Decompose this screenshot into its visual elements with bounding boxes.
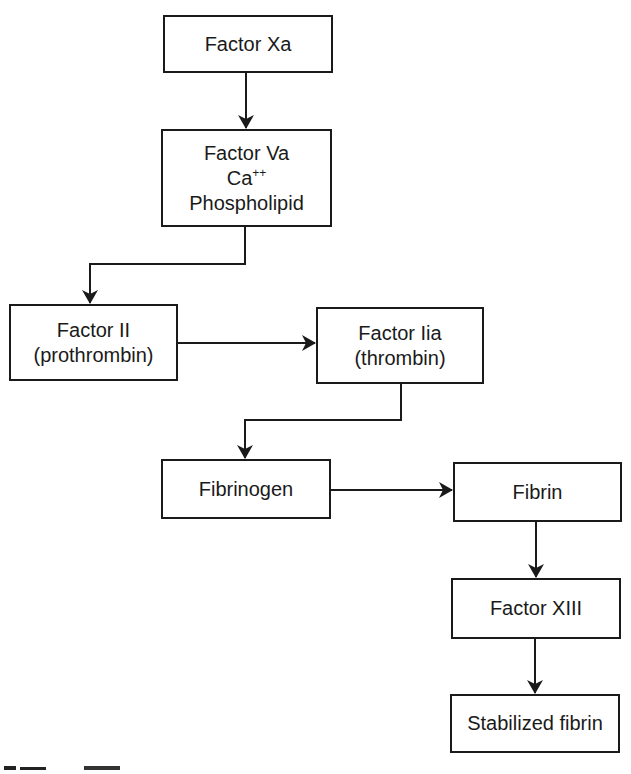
node-sublabel: (thrombin) — [354, 346, 445, 371]
caption-fragment — [4, 758, 144, 770]
node-factor-ii: Factor II (prothrombin) — [9, 304, 178, 381]
node-label: Factor Iia — [358, 321, 441, 346]
node-factor-xiii: Factor XIII — [451, 578, 621, 639]
superscript: ++ — [252, 166, 266, 180]
node-label: Factor Xa — [205, 32, 292, 57]
node-label: Fibrin — [512, 480, 562, 505]
node-sublabel: (prothrombin) — [33, 343, 153, 368]
node-fibrinogen: Fibrinogen — [161, 459, 331, 519]
node-label: Stabilized fibrin — [467, 711, 603, 736]
arrow-iia-to-fibrinogen — [245, 383, 401, 458]
node-fibrin: Fibrin — [453, 462, 622, 522]
node-label: Factor XIII — [490, 596, 582, 621]
node-label: Phospholipid — [189, 191, 304, 216]
figure-caption-clipped — [4, 752, 144, 774]
node-label-calcium: Ca++ — [227, 166, 267, 191]
node-factor-iia: Factor Iia (thrombin) — [316, 307, 484, 384]
node-label: Factor II — [57, 318, 130, 343]
arrow-va-to-factor-ii — [90, 226, 245, 303]
node-label: Fibrinogen — [199, 477, 294, 502]
node-factor-va-complex: Factor Va Ca++ Phospholipid — [161, 129, 332, 227]
node-factor-xa: Factor Xa — [163, 15, 333, 73]
node-label: Factor Va — [204, 141, 289, 166]
node-stabilized-fibrin: Stabilized fibrin — [450, 694, 620, 753]
